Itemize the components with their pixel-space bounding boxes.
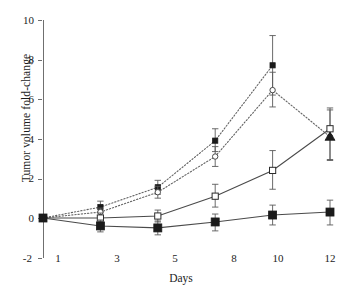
series-layer — [39, 36, 335, 235]
data-point-marker — [96, 222, 104, 230]
series-line — [43, 129, 330, 218]
data-point-marker — [270, 87, 275, 92]
series-line — [43, 90, 330, 218]
data-point-marker — [326, 208, 334, 216]
data-point-marker — [269, 211, 277, 219]
data-point-marker — [155, 190, 160, 195]
plot-area — [0, 0, 362, 298]
data-point-marker — [212, 193, 218, 199]
data-point-marker — [155, 213, 161, 219]
data-point-marker — [154, 224, 162, 232]
data-point-marker — [270, 167, 276, 173]
data-point-marker — [213, 154, 218, 159]
data-point-marker — [211, 218, 219, 226]
data-point-marker — [213, 138, 218, 143]
series-open-square-solid — [40, 108, 333, 223]
data-point-marker — [270, 63, 275, 68]
data-point-marker — [39, 214, 47, 222]
series-line — [43, 212, 330, 228]
data-point-marker — [327, 126, 333, 132]
chart-container: Tumor volume fold-change Days 10 8 6 4 2… — [0, 0, 362, 298]
series-open-circle-dotted — [40, 72, 333, 220]
